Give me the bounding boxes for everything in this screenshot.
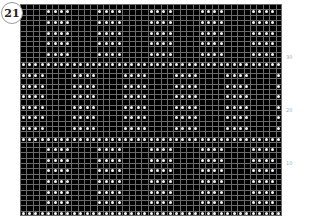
stitch-dot	[162, 10, 165, 13]
grid-line	[20, 205, 282, 206]
stitch-dot	[156, 148, 159, 151]
stitch-dot	[258, 10, 261, 13]
stitch-dot	[28, 74, 31, 77]
stitch-dot	[181, 127, 184, 130]
stitch-dot	[220, 21, 223, 24]
stitch-dot	[258, 212, 261, 215]
grid-line	[20, 163, 282, 164]
stitch-dot	[156, 191, 159, 194]
stitch-dot	[28, 138, 31, 141]
stitch-dot	[34, 63, 37, 66]
stitch-dot	[194, 74, 197, 77]
stitch-dot	[130, 106, 133, 109]
stitch-dot	[169, 32, 172, 35]
stitch-dot	[162, 159, 165, 162]
stitch-dot	[105, 201, 108, 204]
stitch-dot	[207, 32, 210, 35]
stitch-dot	[258, 169, 261, 172]
stitch-dot	[47, 138, 50, 141]
stitch-dot	[162, 32, 165, 35]
stitch-dot	[124, 95, 127, 98]
stitch-dot	[226, 138, 229, 141]
stitch-dot	[277, 85, 280, 88]
stitch-dot	[277, 127, 280, 130]
stitch-dot	[194, 85, 197, 88]
stitch-dot	[162, 21, 165, 24]
stitch-dot	[207, 63, 210, 66]
stitch-dot	[66, 21, 69, 24]
grid-line	[20, 131, 282, 132]
stitch-dot	[169, 180, 172, 183]
stitch-dot	[265, 53, 268, 56]
grid-line	[20, 78, 282, 79]
stitch-dot	[34, 138, 37, 141]
stitch-dot	[181, 63, 184, 66]
stitch-dot	[143, 212, 146, 215]
stitch-dot	[66, 180, 69, 183]
stitch-dot	[28, 95, 31, 98]
stitch-dot	[137, 116, 140, 119]
stitch-dot	[66, 63, 69, 66]
stitch-dot	[130, 85, 133, 88]
stitch-dot	[252, 201, 255, 204]
stitch-dot	[220, 159, 223, 162]
stitch-dot	[118, 53, 121, 56]
stitch-dot	[207, 180, 210, 183]
stitch-dot	[130, 63, 133, 66]
stitch-dot	[258, 159, 261, 162]
stitch-dot	[265, 159, 268, 162]
stitch-dot	[86, 106, 89, 109]
stitch-dot	[22, 85, 25, 88]
stitch-dot	[22, 127, 25, 130]
stitch-dot	[213, 201, 216, 204]
stitch-dot	[252, 21, 255, 24]
stitch-dot	[34, 85, 37, 88]
stitch-dot	[47, 42, 50, 45]
stitch-dot	[73, 63, 76, 66]
stitch-dot	[265, 10, 268, 13]
stitch-dot	[220, 10, 223, 13]
stitch-dot	[137, 127, 140, 130]
stitch-dot	[79, 138, 82, 141]
stitch-dot	[181, 116, 184, 119]
stitch-dot	[220, 169, 223, 172]
stitch-dot	[150, 191, 153, 194]
stitch-dot	[252, 10, 255, 13]
stitch-dot	[124, 63, 127, 66]
stitch-dot	[271, 10, 274, 13]
stitch-dot	[92, 106, 95, 109]
stitch-dot	[98, 159, 101, 162]
grid-line	[20, 99, 282, 100]
stitch-dot	[105, 42, 108, 45]
stitch-dot	[28, 212, 31, 215]
stitch-dot	[220, 191, 223, 194]
stitch-dot	[143, 95, 146, 98]
stitch-dot	[220, 63, 223, 66]
stitch-dot	[41, 127, 44, 130]
stitch-dot	[98, 32, 101, 35]
stitch-dot	[194, 127, 197, 130]
stitch-dot	[271, 159, 274, 162]
stitch-dot	[162, 148, 165, 151]
stitch-dot	[92, 95, 95, 98]
stitch-dot	[277, 138, 280, 141]
stitch-dot	[54, 21, 57, 24]
stitch-dot	[118, 138, 121, 141]
stitch-dot	[194, 63, 197, 66]
stitch-dot	[137, 74, 140, 77]
stitch-dot	[188, 116, 191, 119]
stitch-dot	[66, 10, 69, 13]
stitch-dot	[98, 42, 101, 45]
stitch-dot	[150, 180, 153, 183]
stitch-dot	[98, 63, 101, 66]
stitch-dot	[277, 106, 280, 109]
stitch-dot	[252, 169, 255, 172]
stitch-dot	[188, 106, 191, 109]
stitch-dot	[73, 212, 76, 215]
stitch-dot	[143, 74, 146, 77]
stitch-dot	[118, 42, 121, 45]
stitch-dot	[118, 32, 121, 35]
stitch-dot	[265, 42, 268, 45]
stitch-dot	[60, 169, 63, 172]
stitch-dot	[22, 95, 25, 98]
